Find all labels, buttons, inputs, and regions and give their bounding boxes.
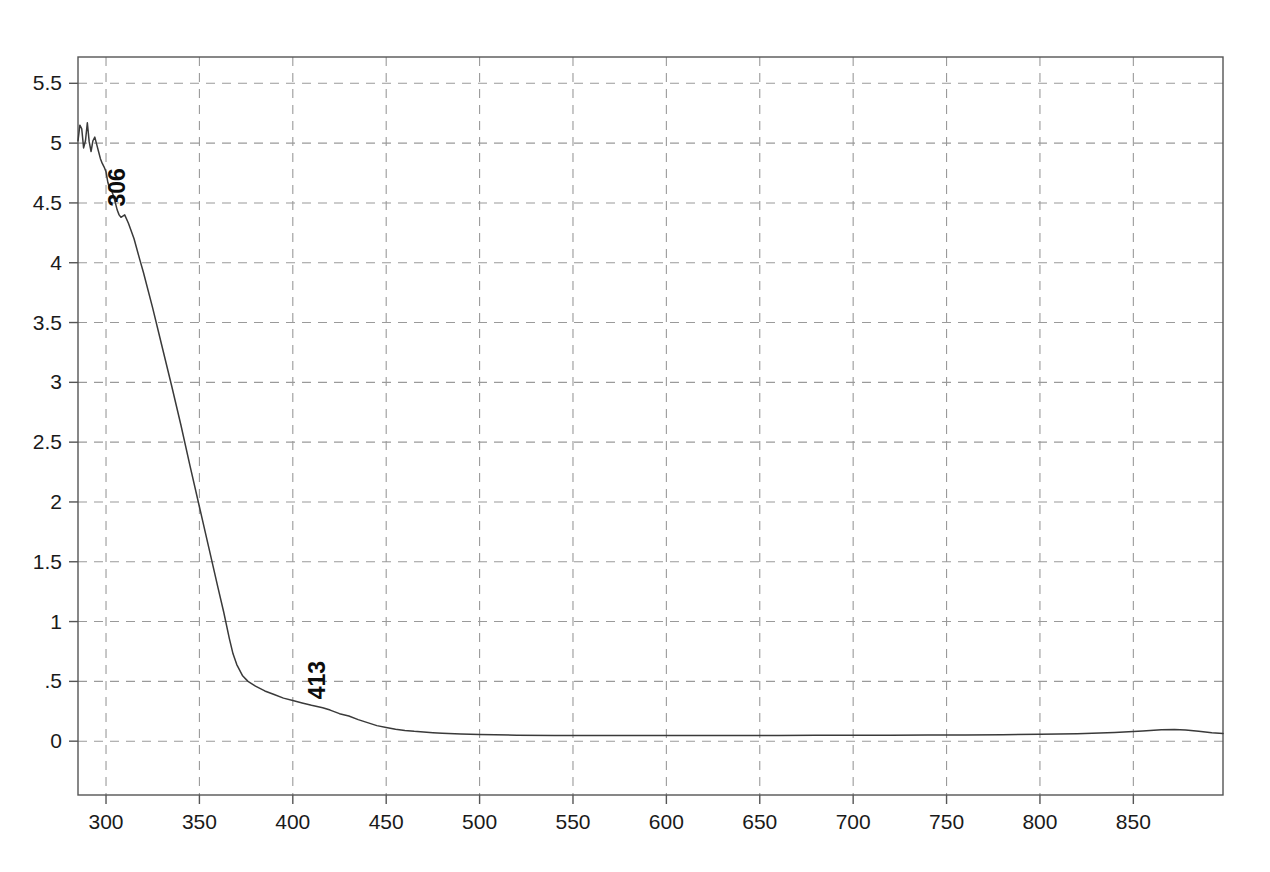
y-tick-label: 4 [50,251,62,274]
x-tick-label: 600 [649,810,684,833]
y-tick-label: 3 [50,370,62,393]
x-tick-label: 650 [742,810,777,833]
x-tick-label: 350 [182,810,217,833]
chart-canvas: 0.511.522.533.544.555.5 3003504004505005… [0,0,1270,872]
x-tick-label: 550 [555,810,590,833]
y-tick-label: 1.5 [33,550,62,573]
y-tick-label: 3.5 [33,311,62,334]
y-tick-label: 5 [50,131,62,154]
peak-label-413: 413 [304,661,330,699]
x-tick-label: 700 [836,810,871,833]
x-tick-label: 750 [929,810,964,833]
y-tick-label: 1 [50,610,62,633]
y-tick-label: 4.5 [33,191,62,214]
spectrum-chart: 0.511.522.533.544.555.5 3003504004505005… [0,0,1270,872]
y-tick-label: 2.5 [33,430,62,453]
x-tick-label: 800 [1022,810,1057,833]
y-tick-label: 2 [50,490,62,513]
y-tick-label: 0 [50,729,62,752]
y-tick-label: 5.5 [33,71,62,94]
x-tick-label: 300 [88,810,123,833]
x-tick-label: 850 [1116,810,1151,833]
x-tick-label: 500 [462,810,497,833]
peak-label-306: 306 [104,168,130,206]
x-tick-label: 400 [275,810,310,833]
x-tick-label: 450 [369,810,404,833]
y-tick-label: .5 [44,669,62,692]
